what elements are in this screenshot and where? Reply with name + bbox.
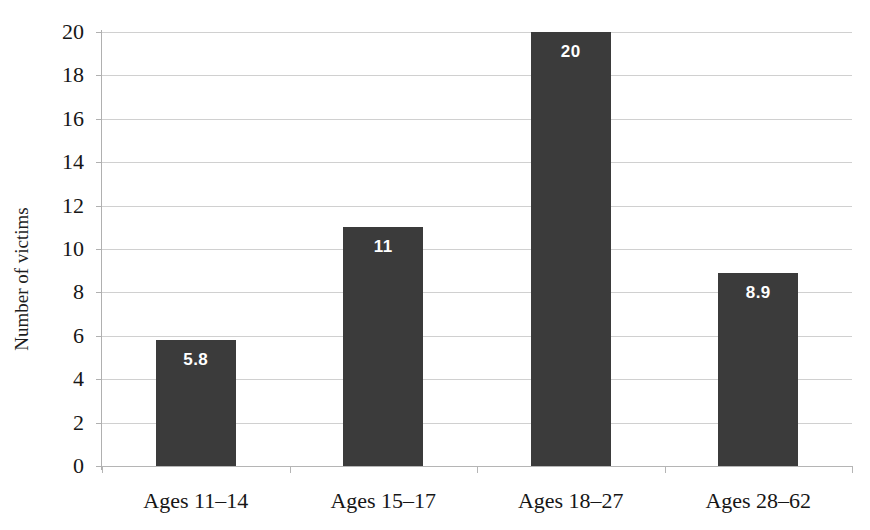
y-tick-label: 0 xyxy=(24,455,84,477)
bar[interactable]: 5.8 xyxy=(156,340,236,466)
y-tick-2 xyxy=(96,423,102,424)
x-tick-label: Ages 15–17 xyxy=(290,488,478,514)
y-tick-label: 16 xyxy=(24,108,84,130)
bar-chart: Number of victims 5.811208.9 20181614121… xyxy=(0,0,870,530)
gridline-14 xyxy=(102,162,852,163)
y-tick-label: 4 xyxy=(24,368,84,390)
plot-area: 5.811208.9 xyxy=(102,32,852,466)
gridline-12 xyxy=(102,206,852,207)
bar[interactable]: 20 xyxy=(531,32,611,466)
y-tick-6 xyxy=(96,336,102,337)
y-tick-12 xyxy=(96,206,102,207)
clipped-title-strip xyxy=(0,0,870,10)
gridline-18 xyxy=(102,75,852,76)
y-tick-label: 18 xyxy=(24,64,84,86)
x-axis-end-cap-right xyxy=(852,466,853,473)
bar[interactable]: 8.9 xyxy=(718,273,798,466)
x-tick-label: Ages 18–27 xyxy=(477,488,665,514)
x-axis-separator xyxy=(665,466,666,473)
x-axis-separator xyxy=(290,466,291,473)
x-axis-end-cap-left xyxy=(102,466,103,473)
y-tick-label: 12 xyxy=(24,195,84,217)
bar-value-label: 5.8 xyxy=(156,350,236,370)
x-axis-separator xyxy=(477,466,478,473)
bar[interactable]: 11 xyxy=(343,227,423,466)
y-tick-20 xyxy=(96,32,102,33)
y-tick-label: 2 xyxy=(24,412,84,434)
y-tick-18 xyxy=(96,75,102,76)
y-tick-label: 8 xyxy=(24,281,84,303)
x-tick-label: Ages 11–14 xyxy=(102,488,290,514)
y-tick-10 xyxy=(96,249,102,250)
gridline-10 xyxy=(102,249,852,250)
gridline-16 xyxy=(102,119,852,120)
bar-value-label: 20 xyxy=(531,42,611,62)
bar-value-label: 8.9 xyxy=(718,283,798,303)
y-tick-label: 14 xyxy=(24,151,84,173)
x-tick-label: Ages 28–62 xyxy=(665,488,853,514)
y-tick-14 xyxy=(96,162,102,163)
y-tick-label: 10 xyxy=(24,238,84,260)
gridline-20 xyxy=(102,32,852,33)
y-tick-label: 20 xyxy=(24,21,84,43)
y-tick-16 xyxy=(96,119,102,120)
y-tick-4 xyxy=(96,379,102,380)
y-tick-8 xyxy=(96,292,102,293)
bar-value-label: 11 xyxy=(343,237,423,257)
y-tick-label: 6 xyxy=(24,325,84,347)
